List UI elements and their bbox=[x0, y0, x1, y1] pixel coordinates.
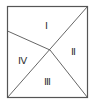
left-segment bbox=[8, 31, 51, 50]
region-label-I: Ⅰ bbox=[45, 20, 48, 31]
region-label-III: Ⅲ bbox=[44, 76, 51, 87]
region-label-II: Ⅱ bbox=[71, 46, 76, 57]
partition-diagram: Ⅰ Ⅱ Ⅲ Ⅳ bbox=[0, 0, 93, 104]
region-label-IV: Ⅳ bbox=[18, 55, 28, 66]
lower-right-segment bbox=[50, 50, 88, 98]
